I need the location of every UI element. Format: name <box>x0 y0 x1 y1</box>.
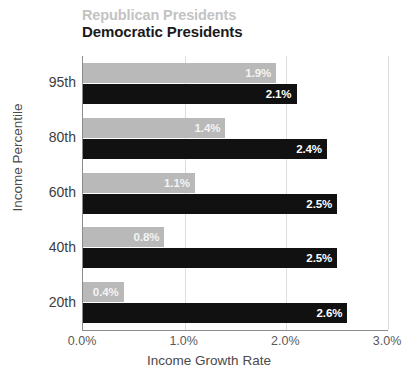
plot-area: 1.9%2.1%1.4%2.4%1.1%2.5%0.8%2.5%0.4%2.6% <box>82 56 388 331</box>
chart-legend: Republican Presidents Democratic Preside… <box>82 8 242 40</box>
bar-group: 0.4%2.6% <box>83 282 388 324</box>
bar-republican: 1.9% <box>83 63 276 83</box>
bar-republican: 1.4% <box>83 118 225 138</box>
x-axis-tick-label: 0.0% <box>42 334 122 348</box>
bar-democratic: 2.6% <box>83 303 347 323</box>
bar-value-label: 1.9% <box>245 67 271 79</box>
y-axis-tick-label: 40th <box>6 239 76 255</box>
gridline <box>388 56 389 330</box>
legend-item-democratic: Democratic Presidents <box>82 24 242 40</box>
bar-value-label: 0.4% <box>93 286 119 298</box>
legend-item-republican: Republican Presidents <box>82 8 242 23</box>
y-axis-title: Income Percentile <box>10 78 25 238</box>
income-growth-bar-chart: Republican Presidents Democratic Preside… <box>0 0 418 377</box>
bar-democratic: 2.5% <box>83 194 337 214</box>
bar-group: 0.8%2.5% <box>83 227 388 269</box>
y-axis-tick-label: 20th <box>6 294 76 310</box>
bar-value-label: 2.4% <box>296 143 322 155</box>
bar-value-label: 2.1% <box>266 88 292 100</box>
bar-democratic: 2.5% <box>83 248 337 268</box>
bar-group: 1.9%2.1% <box>83 63 388 105</box>
bar-democratic: 2.4% <box>83 139 327 159</box>
x-axis-tick-label: 3.0% <box>347 334 418 348</box>
bar-value-label: 2.5% <box>306 198 332 210</box>
bar-republican: 0.4% <box>83 282 124 302</box>
x-axis-tick-label: 2.0% <box>245 334 325 348</box>
bar-value-label: 1.4% <box>195 122 221 134</box>
x-axis-ticks: 0.0%1.0%2.0%3.0% <box>0 334 418 350</box>
bar-republican: 0.8% <box>83 227 164 247</box>
bar-group: 1.1%2.5% <box>83 173 388 215</box>
bar-republican: 1.1% <box>83 173 195 193</box>
x-axis-tick-label: 1.0% <box>144 334 224 348</box>
x-axis-title: Income Growth Rate <box>0 353 418 368</box>
bar-democratic: 2.1% <box>83 84 297 104</box>
bar-value-label: 2.5% <box>306 252 332 264</box>
bar-value-label: 1.1% <box>164 177 190 189</box>
bar-group: 1.4%2.4% <box>83 118 388 160</box>
bar-value-label: 2.6% <box>317 307 343 319</box>
bar-value-label: 0.8% <box>134 231 160 243</box>
